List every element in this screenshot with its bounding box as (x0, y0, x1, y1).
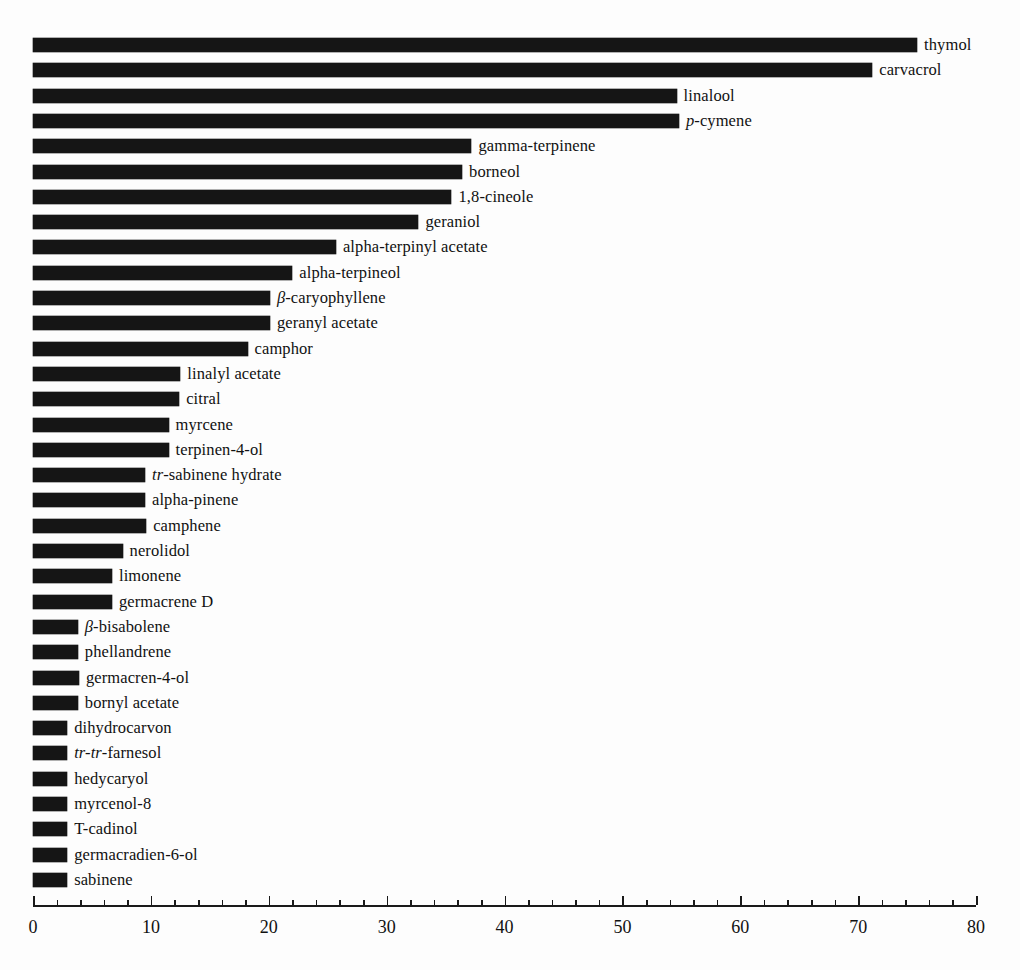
axis-tick-major (387, 896, 389, 905)
axis-tick-minor (552, 900, 554, 905)
axis-tick-minor (174, 900, 176, 905)
bar (33, 63, 872, 77)
bar-row: β-bisabolene (33, 620, 170, 634)
bar-label: gamma-terpinene (471, 139, 595, 153)
bar-label: alpha-terpinyl acetate (336, 240, 488, 254)
bar (33, 822, 67, 836)
bar-row: camphene (33, 519, 221, 533)
bar-row: citral (33, 392, 221, 406)
axis-tick-minor (57, 900, 59, 905)
axis-tick-minor (717, 900, 719, 905)
bar (33, 519, 146, 533)
bar-row: borneol (33, 165, 520, 179)
plot-area: thymolcarvacrollinaloolp-cymenegamma-ter… (0, 0, 1020, 900)
bar (33, 291, 270, 305)
bar-row: tr-sabinene hydrate (33, 468, 282, 482)
axis-tick-minor (198, 900, 200, 905)
bar-label: terpinen-4-ol (169, 443, 263, 457)
bar-label: tr-sabinene hydrate (145, 468, 282, 482)
bar-row: germacren-4-ol (33, 671, 189, 685)
bar (33, 772, 67, 786)
axis-tick-label: 60 (731, 917, 749, 938)
bar-label: camphor (248, 342, 313, 356)
bar (33, 797, 67, 811)
axis-tick-minor (835, 900, 837, 905)
bar-row: carvacrol (33, 63, 942, 77)
bar-label: germacradien-6-ol (67, 848, 198, 862)
bar-row: myrcenol-8 (33, 797, 151, 811)
bar-row: bornyl acetate (33, 696, 179, 710)
bar-label: citral (179, 392, 221, 406)
axis-tick-minor (292, 900, 294, 905)
bar-row: gamma-terpinene (33, 139, 595, 153)
bar-label: geraniol (418, 215, 480, 229)
bar-label: β-bisabolene (78, 620, 170, 634)
bar (33, 392, 179, 406)
bar-label: dihydrocarvon (67, 721, 172, 735)
axis-tick-minor (882, 900, 884, 905)
bar-row: alpha-terpineol (33, 266, 401, 280)
axis-tick-minor (811, 900, 813, 905)
axis-tick-label: 30 (378, 917, 396, 938)
bar-label: thymol (917, 38, 971, 52)
figure-caption-cropped (0, 952, 1020, 970)
bar (33, 443, 169, 457)
bar-row: T-cadinol (33, 822, 138, 836)
bar (33, 38, 917, 52)
axis-tick-minor (127, 900, 129, 905)
bar-row: sabinene (33, 873, 133, 887)
bar (33, 671, 79, 685)
bar-label: p-cymene (679, 114, 752, 128)
axis-tick-label: 50 (613, 917, 631, 938)
bar-row: dihydrocarvon (33, 721, 172, 735)
bar-label: phellandrene (78, 645, 171, 659)
bar-row: 1,8-cineole (33, 190, 533, 204)
bar-chart: thymolcarvacrollinaloolp-cymenegamma-ter… (0, 0, 1020, 970)
bar-row: germacradien-6-ol (33, 848, 198, 862)
bar-label: carvacrol (872, 63, 941, 77)
bar-row: limonene (33, 569, 181, 583)
bar (33, 493, 145, 507)
axis-tick-minor (457, 900, 459, 905)
axis-tick-minor (434, 900, 436, 905)
axis-tick-minor (481, 900, 483, 905)
axis-tick-major (740, 896, 742, 905)
bar (33, 240, 336, 254)
bar (33, 569, 112, 583)
bar-label: 1,8-cineole (451, 190, 533, 204)
bar (33, 139, 471, 153)
bar-label: limonene (112, 569, 181, 583)
bar-row: germacrene D (33, 595, 213, 609)
bar-label: sabinene (67, 873, 133, 887)
bar-label: germacren-4-ol (79, 671, 189, 685)
bar-label: germacrene D (112, 595, 213, 609)
bar-label: nerolidol (123, 544, 190, 558)
bar (33, 696, 78, 710)
axis-tick-major (976, 896, 978, 905)
bar-row: linalyl acetate (33, 367, 281, 381)
axis-tick-minor (787, 900, 789, 905)
bar-label: borneol (462, 165, 520, 179)
bar-label: linalyl acetate (180, 367, 281, 381)
bar-row: myrcene (33, 418, 233, 432)
axis-tick-minor (693, 900, 695, 905)
bar-row: geranyl acetate (33, 316, 378, 330)
axis-tick-minor (575, 900, 577, 905)
axis-tick-minor (528, 900, 530, 905)
bar-label: linalool (677, 89, 735, 103)
axis-tick-label: 70 (849, 917, 867, 938)
bar-label: alpha-pinene (145, 493, 238, 507)
axis-tick-minor (316, 900, 318, 905)
axis-tick-minor (80, 900, 82, 905)
bar (33, 342, 248, 356)
axis-tick-minor (410, 900, 412, 905)
axis-tick-minor (363, 900, 365, 905)
bar-label: hedycaryol (67, 772, 148, 786)
bar (33, 367, 180, 381)
bar-row: p-cymene (33, 114, 752, 128)
bar (33, 266, 292, 280)
axis-tick-major (505, 896, 507, 905)
bar-label: geranyl acetate (270, 316, 378, 330)
bar (33, 215, 418, 229)
axis-tick-minor (952, 900, 954, 905)
